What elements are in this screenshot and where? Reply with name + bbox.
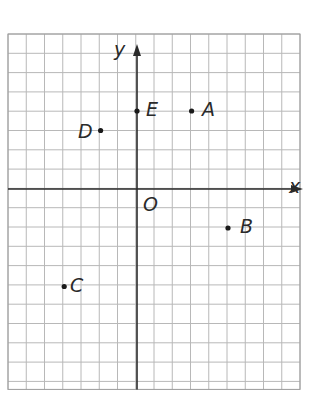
point-b-dot-icon (225, 225, 230, 230)
point-label-a: A (202, 100, 215, 119)
point-e-dot-icon (134, 108, 139, 113)
point-label-d: D (78, 122, 93, 141)
point-label-c: C (70, 276, 83, 295)
point-a-dot-icon (189, 108, 194, 113)
point-label-e: E (146, 100, 158, 119)
point-c-dot-icon (62, 284, 67, 289)
origin-label: O (143, 195, 158, 214)
point-d-dot-icon (98, 128, 103, 133)
coordinate-plane (0, 0, 320, 399)
axes (8, 44, 303, 389)
y-axis-label: y (114, 40, 125, 59)
x-axis-label: x (289, 177, 300, 196)
y-axis-arrow-icon (133, 44, 141, 56)
point-label-b: B (240, 217, 253, 236)
